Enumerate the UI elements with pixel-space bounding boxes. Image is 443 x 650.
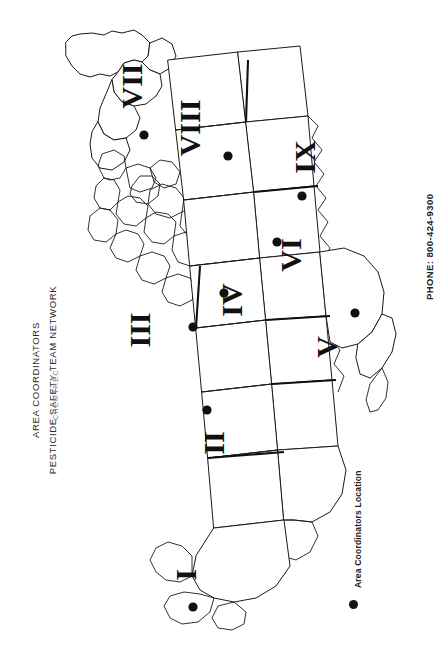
coordinator-dot-viii bbox=[223, 151, 232, 160]
coordinator-dot-ix bbox=[297, 191, 306, 200]
coordinator-dot-v bbox=[350, 308, 359, 317]
coordinator-dot-ii bbox=[202, 405, 211, 414]
coordinator-dot-vii bbox=[139, 130, 148, 139]
region-numeral-ii: II bbox=[197, 431, 230, 454]
page-title: AREA COORDINATORS PESTICIDE SAFETY TEAM … bbox=[30, 60, 90, 530]
filled-circle-icon bbox=[349, 600, 358, 609]
legend-label: Area Coordinators Location bbox=[353, 470, 363, 588]
region-numeral-vi: VI bbox=[274, 238, 307, 271]
subtitle-text: CHEMTREC bbox=[52, 369, 59, 420]
map-page: IIIIIIIVVVIVIIVIIIIX AREA COORDINATORS P… bbox=[0, 0, 443, 650]
coordinator-dot-iii bbox=[188, 322, 197, 331]
region-numeral-ix: IX bbox=[288, 140, 321, 174]
subtitle: CHEMTREC bbox=[52, 369, 59, 420]
region-numeral-viii: VIII bbox=[173, 100, 206, 157]
region-numeral-iii: III bbox=[123, 312, 156, 347]
map-outline-layer bbox=[66, 30, 396, 630]
coordinator-dot-i bbox=[188, 602, 197, 611]
region-numeral-i: I bbox=[169, 569, 202, 581]
region-numeral-iv: IV bbox=[215, 283, 248, 317]
title-line-1: AREA COORDINATORS bbox=[30, 230, 41, 530]
region-numeral-vii: VII bbox=[115, 63, 148, 108]
region-numeral-v: V bbox=[310, 336, 343, 358]
phone-label: PHONE: 800-424-9300 bbox=[424, 194, 435, 300]
